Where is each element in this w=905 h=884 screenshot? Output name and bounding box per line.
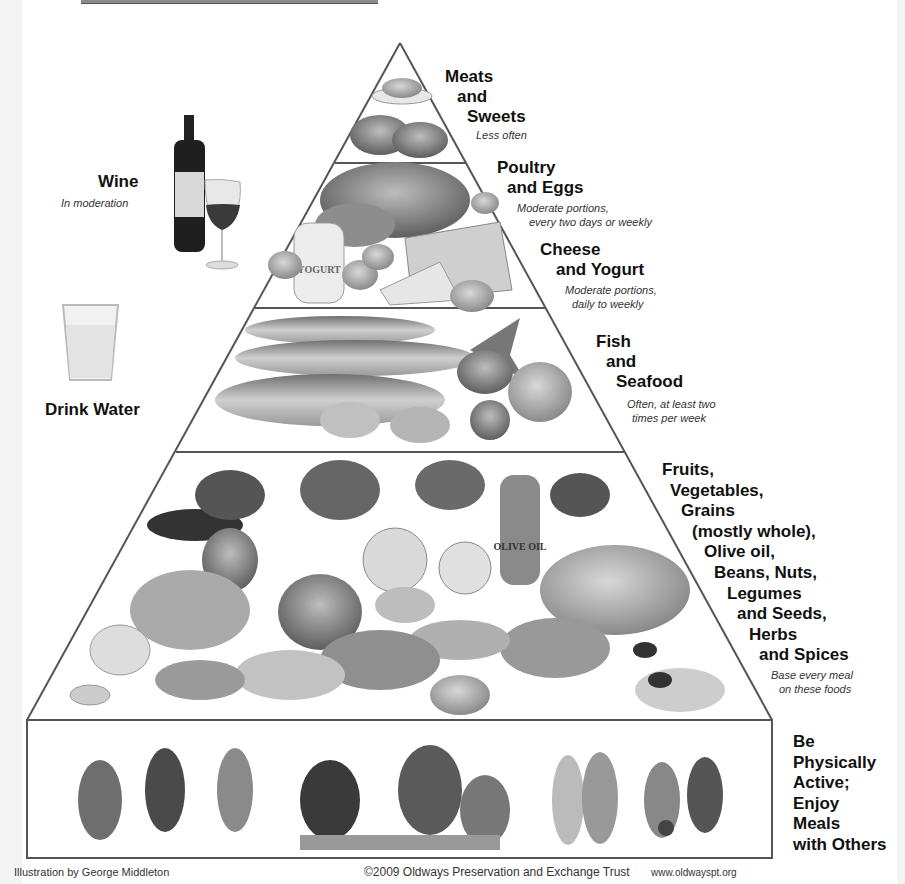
wine-label: Wine — [98, 172, 138, 192]
tier-label-meats-sweets: Meats and Sweets — [445, 67, 526, 127]
wine-bottle-illustration — [174, 115, 240, 269]
svg-text:OLIVE OIL: OLIVE OIL — [493, 541, 546, 552]
copyright-notice: ©2009 Oldways Preservation and Exchange … — [364, 865, 630, 879]
pyramid-diagram: YOGURT OLIVE OIL — [0, 0, 905, 884]
tier-label-plant-foods: Fruits, Vegetables, Grains (mostly whole… — [662, 460, 849, 666]
website-link[interactable]: www.oldwayspt.org — [651, 867, 737, 878]
tier-note-plant-foods: Base every meal on these foods — [771, 668, 853, 696]
fish-seafood-illustration — [215, 316, 572, 443]
wine-note: In moderation — [61, 196, 128, 210]
tier-label-activity-meals: Be Physically Active; Enjoy Meals with O… — [793, 732, 887, 855]
activity-meals-illustration — [78, 745, 723, 850]
plant-foods-illustration: OLIVE OIL — [70, 460, 725, 715]
tier-note-poultry-eggs: Moderate portions, every two days or wee… — [517, 201, 652, 229]
illustrator-credit: Illustration by George Middleton — [14, 866, 169, 878]
tier-label-cheese-yogurt: Cheese and Yogurt — [540, 240, 644, 280]
water-label: Drink Water — [45, 400, 140, 420]
tier-label-fish-seafood: Fish and Seafood — [596, 332, 683, 392]
svg-text:YOGURT: YOGURT — [297, 264, 341, 275]
tier-note-meats-sweets: Less often — [476, 128, 527, 142]
meats-sweets-illustration — [350, 78, 448, 158]
tier-note-cheese-yogurt: Moderate portions, daily to weekly — [565, 283, 657, 311]
water-glass-illustration — [63, 305, 118, 380]
poultry-cheese-illustration: YOGURT — [268, 162, 512, 312]
tier-label-poultry-eggs: Poultry and Eggs — [497, 158, 584, 198]
tier-note-fish-seafood: Often, at least two times per week — [627, 397, 716, 425]
